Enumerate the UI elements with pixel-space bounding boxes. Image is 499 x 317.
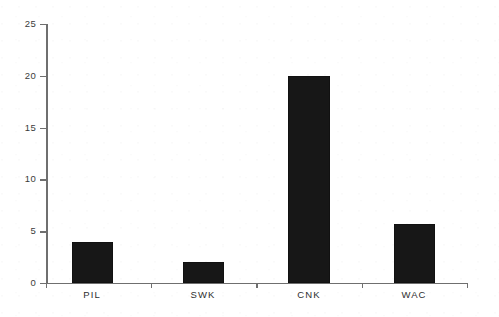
x-category-label-swk: SWK bbox=[173, 290, 233, 300]
x-tick-mark-3 bbox=[362, 283, 363, 288]
x-category-label-cnk: CNK bbox=[279, 290, 339, 300]
x-tick-mark-1 bbox=[151, 283, 152, 288]
bar-swk[interactable] bbox=[183, 262, 224, 283]
y-tick-label-5: 5 bbox=[10, 226, 36, 236]
y-tick-label-0: 0 bbox=[10, 278, 36, 288]
y-tick-label-15: 15 bbox=[10, 123, 36, 133]
y-tick-mark-25 bbox=[40, 24, 46, 25]
x-tick-mark-2 bbox=[256, 283, 257, 288]
y-tick-label-10: 10 bbox=[10, 174, 36, 184]
x-category-label-wac: WAC bbox=[384, 290, 444, 300]
y-tick-mark-10 bbox=[40, 179, 46, 180]
y-tick-mark-20 bbox=[40, 76, 46, 77]
y-tick-mark-15 bbox=[40, 128, 46, 129]
bar-wac[interactable] bbox=[394, 224, 435, 283]
y-tick-mark-5 bbox=[40, 231, 46, 232]
x-tick-mark-0 bbox=[46, 283, 47, 288]
bar-pil[interactable] bbox=[72, 242, 113, 283]
y-tick-label-25: 25 bbox=[10, 19, 36, 29]
x-tick-mark-4 bbox=[467, 283, 468, 288]
bar-cnk[interactable] bbox=[288, 76, 330, 283]
x-category-label-pil: PIL bbox=[62, 290, 122, 300]
bar-chart-figure: 25 20 15 10 5 0 P bbox=[0, 0, 499, 317]
y-tick-label-20: 20 bbox=[10, 71, 36, 81]
plot-area: 25 20 15 10 5 0 P bbox=[0, 0, 499, 317]
y-axis-line bbox=[46, 24, 48, 284]
